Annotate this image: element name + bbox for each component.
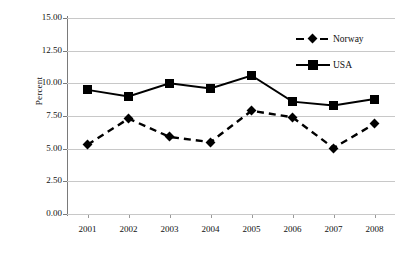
x-tick-label: 2006 [270,224,316,234]
y-tick-label: 15.00 [22,12,62,22]
y-tick-label: 12.50 [22,45,62,55]
legend-item-norway[interactable]: Norway [296,26,408,52]
x-tick-label: 2002 [106,224,152,234]
x-tick-label: 2008 [352,224,398,234]
legend-label-usa: USA [333,60,352,70]
x-tick-label: 2001 [65,224,111,234]
gridline [67,214,395,215]
x-tick-label: 2007 [311,224,357,234]
data-point-usa-2002 [124,92,133,101]
legend-label-norway: Norway [333,34,364,44]
data-point-usa-2008 [370,95,379,104]
y-tick-label: 2.50 [22,175,62,185]
data-point-usa-2007 [329,101,338,110]
y-tick-label: 5.00 [22,143,62,153]
x-tick-label: 2005 [229,224,275,234]
y-tick-label: 10.00 [22,77,62,87]
legend-item-usa[interactable]: USA [296,52,408,78]
y-tick-label: 7.50 [22,110,62,120]
norway-line-diamond-icon [296,33,330,45]
line-chart: Percent 15.0012.5010.007.505.002.500.00 … [0,0,413,255]
x-tick-label: 2003 [147,224,193,234]
x-tick-label: 2004 [188,224,234,234]
data-point-usa-2003 [165,79,174,88]
data-point-usa-2005 [247,71,256,80]
data-point-usa-2001 [83,85,92,94]
y-tick-label: 0.00 [22,208,62,218]
data-point-usa-2006 [288,97,297,106]
legend: Norway USA [296,26,408,78]
data-point-usa-2004 [206,84,215,93]
usa-line-square-icon [296,59,330,71]
